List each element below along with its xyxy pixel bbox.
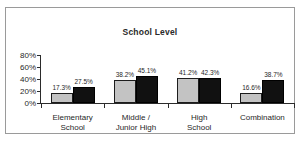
bar-slot: 41.2% xyxy=(177,55,199,103)
y-axis-tick-label: 0% xyxy=(24,99,36,108)
chart-title: School Level xyxy=(6,27,294,37)
bar-series-a[interactable] xyxy=(177,78,199,103)
bar-series-b[interactable] xyxy=(73,87,95,104)
x-axis-category-label: Middle /Junior High xyxy=(104,113,167,133)
x-axis-category-label: ElementarySchool xyxy=(41,113,104,133)
y-axis-tick-label: 40% xyxy=(20,75,36,84)
bar-series-b[interactable] xyxy=(136,76,158,103)
x-axis-separator-tick xyxy=(41,103,42,108)
x-axis-category-line: Elementary xyxy=(41,113,104,123)
bar-slot: 42.3% xyxy=(199,55,221,103)
plot-area: 80%60%40%20%0% 17.3%27.5%ElementarySchoo… xyxy=(40,55,294,103)
bar-slot: 45.1% xyxy=(136,55,158,103)
x-axis-separator-tick xyxy=(168,103,169,108)
bar-slot: 17.3% xyxy=(51,55,73,103)
bar-value-label: 42.3% xyxy=(201,70,219,77)
bar-pair: 41.2%42.3% xyxy=(168,55,231,103)
x-axis-category-label: Combination xyxy=(231,113,294,123)
x-axis-category-line: School xyxy=(168,123,231,133)
bar-series-a[interactable] xyxy=(114,80,136,103)
y-axis-tick-label: 20% xyxy=(20,87,36,96)
bar-series-b[interactable] xyxy=(199,78,221,103)
bar-series-a[interactable] xyxy=(240,93,262,103)
bar-slot: 16.6% xyxy=(240,55,262,103)
y-axis-tick-label: 80% xyxy=(20,51,36,60)
bar-value-label: 38.7% xyxy=(264,72,282,79)
bar-value-label: 38.2% xyxy=(116,72,134,79)
bar-group: 17.3%27.5%ElementarySchool xyxy=(41,55,104,103)
x-axis-category-line: High xyxy=(168,113,231,123)
x-axis-category-line: Middle / xyxy=(104,113,167,123)
y-axis-tick-label: 60% xyxy=(20,63,36,72)
x-axis-separator-tick xyxy=(294,103,295,108)
bar-value-label: 17.3% xyxy=(52,85,70,92)
bar-slot: 27.5% xyxy=(73,55,95,103)
bar-group: 16.6%38.7%Combination xyxy=(231,55,294,103)
bar-value-label: 41.2% xyxy=(179,70,197,77)
x-axis-category-label: HighSchool xyxy=(168,113,231,133)
x-axis-category-line: Junior High xyxy=(104,123,167,133)
bar-slot: 38.7% xyxy=(262,55,284,103)
bar-value-label: 16.6% xyxy=(242,85,260,92)
bar-slot: 38.2% xyxy=(114,55,136,103)
bar-pair: 16.6%38.7% xyxy=(231,55,294,103)
bar-group: 38.2%45.1%Middle /Junior High xyxy=(104,55,167,103)
x-axis-separator-tick xyxy=(231,103,232,108)
bar-series-a[interactable] xyxy=(51,93,73,103)
x-axis-category-line: School xyxy=(41,123,104,133)
chart-frame: School Level 80%60%40%20%0% 17.3%27.5%El… xyxy=(5,7,295,134)
bar-value-label: 27.5% xyxy=(74,79,92,86)
bar-group: 41.2%42.3%HighSchool xyxy=(168,55,231,103)
x-axis-category-line: Combination xyxy=(231,113,294,123)
x-axis-separator-tick xyxy=(104,103,105,108)
bar-pair: 17.3%27.5% xyxy=(41,55,104,103)
bar-pair: 38.2%45.1% xyxy=(104,55,167,103)
bar-series-b[interactable] xyxy=(262,80,284,103)
bar-groups: 17.3%27.5%ElementarySchool38.2%45.1%Midd… xyxy=(41,55,294,103)
bar-value-label: 45.1% xyxy=(138,68,156,75)
